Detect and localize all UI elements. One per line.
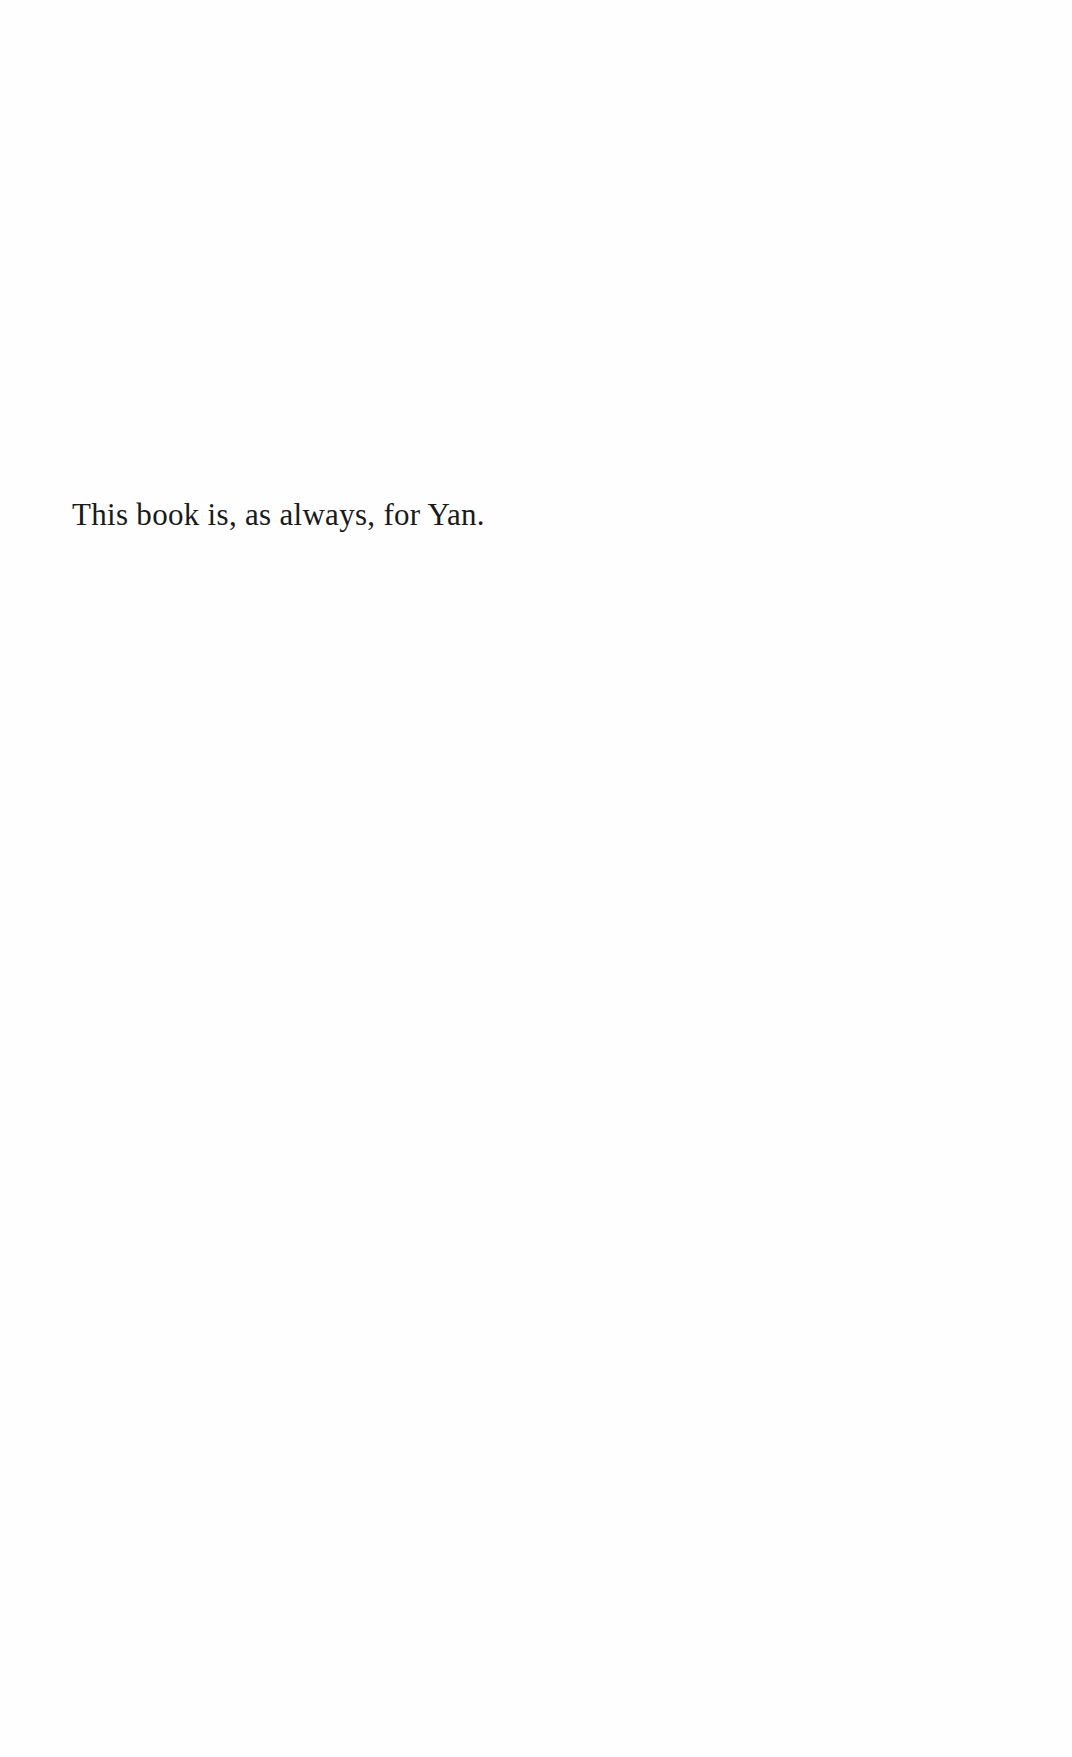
dedication-text: This book is, as always, for Yan. [72, 496, 485, 534]
book-page: This book is, as always, for Yan. [0, 0, 1072, 1757]
